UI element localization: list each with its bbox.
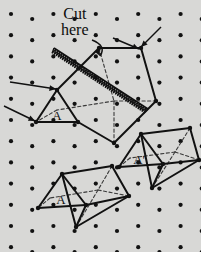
label-a-prime: A' bbox=[133, 152, 145, 167]
grid-dot bbox=[9, 224, 13, 228]
grid-dot bbox=[73, 38, 77, 42]
grid-dot bbox=[9, 139, 13, 143]
vertex-dot bbox=[154, 99, 158, 103]
grid-dot bbox=[30, 208, 34, 212]
grid-dot bbox=[179, 224, 183, 228]
vertex-dot bbox=[139, 132, 143, 136]
grid-dot bbox=[136, 182, 140, 186]
grid-dot bbox=[179, 182, 183, 186]
grid-dot bbox=[51, 33, 55, 37]
grid-dot bbox=[9, 33, 13, 37]
grid-dot bbox=[73, 229, 77, 233]
grid-dot bbox=[73, 81, 77, 85]
grid-dot bbox=[200, 144, 201, 148]
grid-dot bbox=[200, 250, 201, 252]
grid-dot bbox=[115, 81, 119, 85]
grid-dot bbox=[51, 12, 55, 16]
grid-dot bbox=[30, 17, 34, 21]
grid-dot bbox=[94, 33, 98, 37]
grid-dot bbox=[157, 123, 161, 127]
grid-dot bbox=[9, 118, 13, 122]
grid-dot bbox=[115, 187, 119, 191]
grid-dot bbox=[157, 229, 161, 233]
grid-dot bbox=[30, 123, 34, 127]
main-prism-dashed-edge bbox=[99, 48, 114, 101]
grid-dot bbox=[115, 250, 119, 252]
grid-dot bbox=[9, 160, 13, 164]
grid-dot bbox=[115, 123, 119, 127]
grid-dot bbox=[200, 59, 201, 63]
bottom-prism-solid-edge bbox=[112, 166, 129, 196]
diagram-svg: AAA' bbox=[0, 0, 201, 252]
grid-dot bbox=[51, 160, 55, 164]
grid-dot bbox=[179, 76, 183, 80]
grid-dot bbox=[9, 182, 13, 186]
grid-dot bbox=[73, 250, 77, 252]
grid-dot bbox=[30, 250, 34, 252]
grid-dot bbox=[115, 59, 119, 63]
grid-dot bbox=[179, 33, 183, 37]
main-prism-solid-edge bbox=[114, 101, 156, 143]
diagram-canvas: AAA' bbox=[0, 0, 201, 252]
grid-dot bbox=[94, 245, 98, 249]
grid-dot bbox=[51, 245, 55, 249]
grid-dot bbox=[115, 229, 119, 233]
grid-dot bbox=[9, 245, 13, 249]
vertex-dot bbox=[127, 194, 131, 198]
grid-dot bbox=[30, 165, 34, 169]
grid-dot bbox=[157, 250, 161, 252]
grid-dot bbox=[94, 54, 98, 58]
grid-dot bbox=[94, 118, 98, 122]
grid-dot bbox=[73, 165, 77, 169]
bottom-prism-dashed-edge bbox=[98, 166, 112, 190]
grid-dot bbox=[115, 17, 119, 21]
right-prism-dashed-edge bbox=[175, 152, 199, 160]
grid-dot bbox=[179, 54, 183, 58]
grid-dot bbox=[200, 187, 201, 191]
grid-dot bbox=[94, 182, 98, 186]
bottom-prism-dashed-edge bbox=[98, 190, 129, 196]
grid-dot bbox=[179, 203, 183, 207]
grid-dot bbox=[51, 224, 55, 228]
grid-dot bbox=[136, 54, 140, 58]
grid-dot bbox=[94, 224, 98, 228]
grid-dot bbox=[94, 97, 98, 101]
vertex-dot bbox=[60, 172, 64, 176]
right-prism-solid-edge bbox=[141, 128, 190, 134]
grid-dot bbox=[136, 97, 140, 101]
grid-dot bbox=[9, 76, 13, 80]
grid-dot bbox=[9, 203, 13, 207]
grid-dot bbox=[157, 187, 161, 191]
grid-dot bbox=[51, 54, 55, 58]
grid-dot bbox=[179, 245, 183, 249]
cut-here-line2: here bbox=[61, 22, 89, 38]
vertex-dot bbox=[112, 141, 116, 145]
arrow-layer bbox=[4, 27, 161, 121]
grid-dot bbox=[200, 81, 201, 85]
vertex-dot bbox=[117, 165, 121, 169]
grid-dot bbox=[9, 12, 13, 16]
right-prism-solid-edge bbox=[190, 128, 199, 160]
vertex-dot bbox=[197, 158, 201, 162]
grid-dot bbox=[157, 38, 161, 42]
grid-dot bbox=[136, 224, 140, 228]
label-a-bottom: A bbox=[56, 192, 66, 207]
grid-dot bbox=[73, 208, 77, 212]
grid-dot bbox=[30, 59, 34, 63]
grid-dot bbox=[157, 81, 161, 85]
grid-dot bbox=[136, 245, 140, 249]
label-a-main: A bbox=[52, 108, 62, 123]
grid-dot bbox=[30, 144, 34, 148]
vertex-dot bbox=[36, 206, 40, 210]
vertex-dot bbox=[84, 203, 88, 207]
vertex-dot bbox=[161, 162, 165, 166]
vertex-dot bbox=[76, 120, 80, 124]
right-prism-dashed-edge bbox=[175, 128, 190, 152]
grid-dot bbox=[157, 102, 161, 106]
grid-dot bbox=[136, 12, 140, 16]
grid-dot bbox=[179, 118, 183, 122]
grid-dot bbox=[51, 139, 55, 143]
vertex-dot bbox=[150, 186, 154, 190]
grid-dot bbox=[30, 38, 34, 42]
grid-dot bbox=[136, 33, 140, 37]
